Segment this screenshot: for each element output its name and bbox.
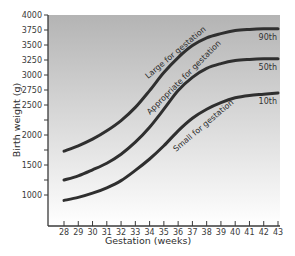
growth-chart: 4000375035003250300027502500200015001000… — [0, 0, 295, 256]
plot-background — [48, 15, 280, 226]
y-tick-label: 3000 — [22, 71, 42, 80]
x-tick-label: 29 — [73, 228, 83, 237]
y-tick-label: 2000 — [22, 131, 42, 140]
y-tick-label: 1500 — [22, 161, 42, 170]
y-tick-label: 4000 — [22, 11, 42, 20]
x-tick-label: 41 — [244, 228, 254, 237]
y-axis-ticks: 4000375035003250300027502500200015001000 — [22, 11, 48, 200]
curve-label-10th: 10th — [259, 97, 277, 106]
y-tick-label: 2500 — [22, 101, 42, 110]
x-tick-label: 30 — [87, 228, 97, 237]
x-tick-label: 28 — [59, 228, 69, 237]
x-tick-label: 43 — [273, 228, 283, 237]
x-tick-label: 40 — [230, 228, 240, 237]
curve-label-50th: 50th — [259, 63, 277, 72]
x-tick-label: 42 — [259, 228, 269, 237]
y-tick-label: 3750 — [22, 26, 42, 35]
y-tick-label: 1000 — [22, 191, 42, 200]
curve-label-90th: 90th — [259, 33, 277, 42]
y-tick-label: 2750 — [22, 86, 42, 95]
y-tick-label: 3500 — [22, 41, 42, 50]
x-tick-label: 38 — [202, 228, 212, 237]
x-axis-title: Gestation (weeks) — [105, 235, 191, 246]
y-tick-label: 3250 — [22, 56, 42, 65]
y-axis-title: Birth weight (g) — [11, 83, 22, 157]
x-tick-label: 39 — [216, 228, 226, 237]
